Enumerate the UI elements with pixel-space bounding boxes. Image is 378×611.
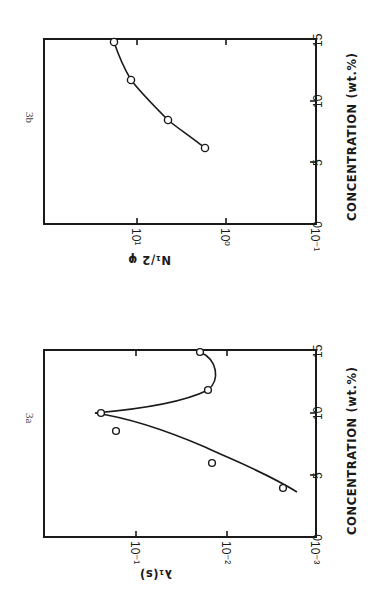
xtick-label-10: 10 bbox=[311, 406, 325, 420]
fit-line-3a bbox=[95, 413, 297, 492]
xtick-label-15: 15 bbox=[311, 33, 325, 47]
xtick-label-0: 0 bbox=[311, 221, 325, 228]
xtick-label-5: 5 bbox=[311, 472, 325, 479]
data-point bbox=[280, 485, 287, 492]
ytick-label-1e-3: 10⁻³ bbox=[308, 541, 322, 564]
y-axis-title-3b: N₁/2 φ bbox=[128, 253, 171, 267]
ytick-label-1e-1: 10⁻¹ bbox=[128, 541, 142, 564]
fit-curve-3a bbox=[95, 352, 216, 413]
x-axis-title-3b: CONCENTRATION (wt.%) bbox=[345, 52, 359, 221]
y-axis-title-3a: λ₁(s) bbox=[139, 567, 172, 581]
ytick-label-1e0: 10⁰ bbox=[218, 228, 232, 246]
ytick-label-1e-2: 10⁻² bbox=[219, 541, 233, 564]
data-point bbox=[113, 428, 120, 435]
data-point bbox=[127, 76, 134, 83]
plot-frame-3a bbox=[44, 350, 316, 537]
data-point bbox=[98, 410, 105, 417]
data-point bbox=[164, 116, 171, 123]
xtick-label-10: 10 bbox=[311, 94, 325, 108]
chart-title-3a: 3a bbox=[24, 413, 36, 424]
xtick-label-0: 0 bbox=[311, 534, 325, 541]
xtick-label-5: 5 bbox=[311, 159, 325, 166]
xtick-label-15: 15 bbox=[311, 344, 325, 358]
plot-frame-3b bbox=[44, 39, 316, 224]
data-point bbox=[110, 38, 117, 45]
figure-canvas: 3b 0 5 10 15 10⁻¹ 10⁰ 10¹ CONCENTRATION … bbox=[0, 0, 378, 611]
data-point bbox=[205, 387, 212, 394]
chart-title-3b: 3b bbox=[24, 112, 36, 124]
data-point bbox=[201, 144, 208, 151]
data-point bbox=[209, 460, 216, 467]
ytick-label-1e-1: 10⁻¹ bbox=[308, 228, 322, 251]
x-axis-title-3a: CONCENTRATION (wt.%) bbox=[345, 366, 359, 535]
chart-3b: 3b 0 5 10 15 10⁻¹ 10⁰ 10¹ CONCENTRATION … bbox=[24, 33, 359, 267]
ytick-label-1e1: 10¹ bbox=[129, 228, 143, 245]
chart-3a: 3a 0 5 10 15 10⁻³ 10⁻² 10⁻¹ CONCENTRATIO… bbox=[24, 344, 359, 581]
data-point bbox=[197, 349, 204, 356]
fit-curve-3b bbox=[114, 42, 205, 148]
